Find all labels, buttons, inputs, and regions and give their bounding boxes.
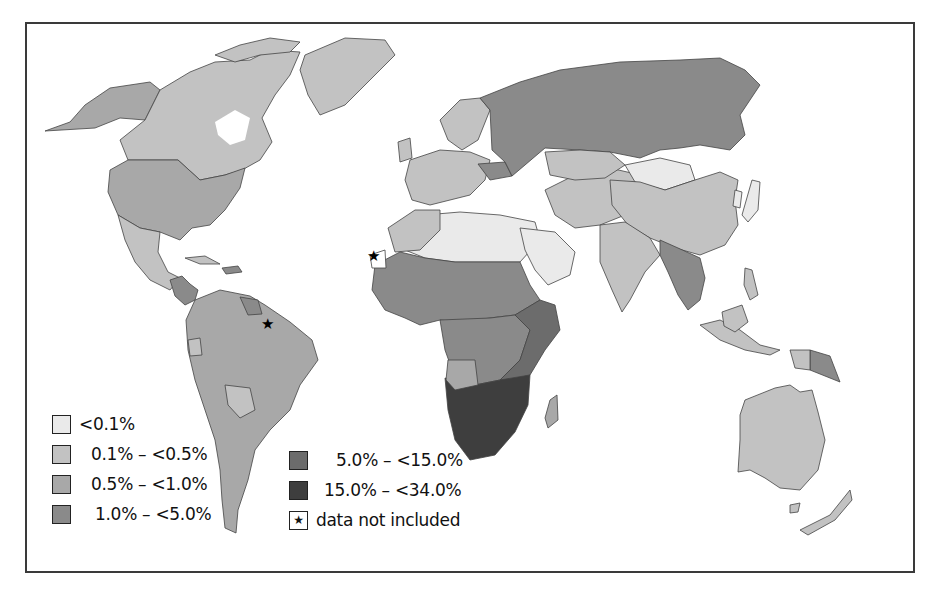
legend-label: 5.0% – <15.0%: [336, 450, 463, 470]
legend-swatch: [52, 475, 71, 494]
legend-label: <0.1%: [79, 414, 135, 434]
region-russia: [480, 58, 760, 176]
legend-item-data-not-included: ★ data not included: [289, 510, 460, 530]
region-uk: [398, 138, 412, 162]
legend-swatch: [52, 505, 71, 524]
region-philippines: [744, 268, 758, 300]
region-west-africa: [372, 252, 540, 325]
region-japan: [742, 180, 760, 222]
star-icon: ★: [289, 511, 308, 530]
data-not-included-marker-western-sahara: ★: [367, 249, 380, 264]
region-hispaniola: [222, 266, 242, 274]
legend-swatch: [289, 451, 308, 470]
region-new-zealand: [800, 490, 852, 535]
region-australia: [738, 385, 825, 490]
legend-swatch: [52, 415, 71, 434]
region-greenland: [300, 38, 395, 115]
legend-item-lt-0-1: <0.1%: [52, 414, 135, 434]
region-madagascar: [545, 395, 558, 428]
legend-label: data not included: [316, 510, 460, 530]
legend-swatch: [52, 445, 71, 464]
region-tasmania: [790, 503, 800, 513]
region-korea: [733, 190, 742, 208]
legend-item-15-0-to-34-0: 15.0% – <34.0%: [289, 480, 461, 500]
legend-item-0-5-to-1-0: 0.5% – <1.0%: [52, 474, 207, 494]
legend-item-5-0-to-15-0: 5.0% – <15.0%: [289, 450, 463, 470]
region-cuba: [185, 256, 220, 264]
region-arabia: [520, 228, 575, 285]
region-new-guinea-west: [790, 350, 810, 370]
legend-item-1-0-to-5-0: 1.0% – <5.0%: [52, 504, 211, 524]
legend-label: 15.0% – <34.0%: [324, 480, 461, 500]
legend-swatch: [289, 481, 308, 500]
region-papua-new-guinea: [810, 350, 840, 382]
region-ecuador: [188, 338, 202, 356]
legend-label: 0.1% – <0.5%: [91, 444, 207, 464]
region-angola: [446, 360, 478, 390]
region-scandinavia: [440, 98, 490, 150]
data-not-included-marker-french-guiana: ★: [261, 317, 274, 332]
legend-label: 1.0% – <5.0%: [95, 504, 211, 524]
legend-label: 0.5% – <1.0%: [91, 474, 207, 494]
region-central-america: [170, 276, 198, 305]
region-western-europe: [405, 150, 490, 205]
legend-item-0-1-to-0-5: 0.1% – <0.5%: [52, 444, 207, 464]
